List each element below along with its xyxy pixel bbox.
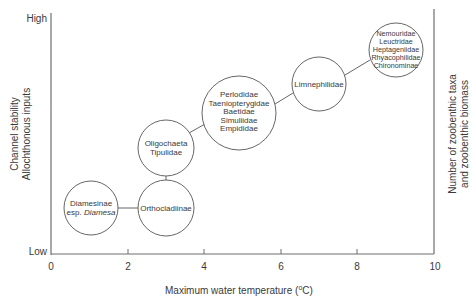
x-tick-8: 8: [354, 261, 360, 272]
y-axis-right-label: Number of zoobenthic taxa and zoobenthic…: [447, 74, 470, 194]
x-tick-0: 0: [48, 261, 54, 272]
svg-text:and zoobenthic biomass: and zoobenthic biomass: [459, 80, 470, 188]
svg-text:Channel stability: Channel stability: [9, 97, 20, 170]
connector-limnephilidae-nemouridae: [345, 60, 370, 75]
connector-perlodidae-limnephilidae: [275, 93, 293, 104]
node-label-diamesinae-2: esp. Diamesa: [67, 208, 116, 217]
svg-text:Allochthonous inputs: Allochthonous inputs: [21, 88, 32, 180]
x-tick-2: 2: [125, 261, 131, 272]
bubble-diagram: 0 2 4 6 8 10 Maximum water temperature (…: [0, 0, 474, 305]
x-tick-6: 6: [278, 261, 284, 272]
node-label-oligochaeta: Oligochaeta: [145, 139, 188, 148]
x-ticks: [128, 249, 357, 254]
node-label-chironominae: Chironominae: [374, 61, 419, 70]
node-label-diamesinae: Diamesinae: [70, 199, 113, 208]
x-tick-10: 10: [429, 261, 441, 272]
node-label-empididae: Empididae: [220, 124, 258, 133]
y-axis-left-label: Channel stability Allochthonous inputs: [9, 88, 32, 180]
x-axis-label: Maximum water temperature (oC): [165, 284, 313, 296]
x-tick-4: 4: [201, 261, 207, 272]
y-high-label: High: [26, 13, 47, 24]
svg-text:Number of zoobenthic taxa: Number of zoobenthic taxa: [447, 74, 458, 194]
node-label-orthocladiinae: Orthocladiinae: [140, 204, 192, 213]
connector-oligochaeta-perlodidae: [189, 124, 205, 133]
node-label-tipulidae: Tipulidae: [150, 148, 183, 157]
node-label-limnephilidae: Limnephilidae: [294, 80, 344, 89]
y-low-label: Low: [29, 246, 48, 257]
